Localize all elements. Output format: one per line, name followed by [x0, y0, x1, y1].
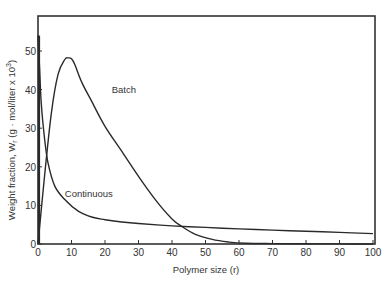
x-tick-label: 30	[133, 247, 145, 258]
y-axis-title-end: )	[6, 60, 17, 63]
x-tick-label: 40	[166, 247, 178, 258]
x-tick-label: 50	[200, 247, 212, 258]
x-tick-label: 80	[300, 247, 312, 258]
x-tick-label: 70	[267, 247, 279, 258]
series-line-continuous	[38, 36, 373, 234]
x-tick-label: 100	[365, 247, 382, 258]
x-tick-label: 60	[233, 247, 245, 258]
y-tick-label: 50	[25, 46, 37, 57]
series-lines	[38, 36, 373, 244]
x-tick-label: 0	[35, 247, 41, 258]
y-tick-label: 10	[25, 200, 37, 211]
plot-border	[38, 16, 375, 244]
x-tick-label: 10	[66, 247, 78, 258]
chart: 0102030405060708090100 01020304050 Batch…	[0, 0, 389, 286]
x-tick-label: 20	[99, 247, 111, 258]
x-tick-label: 90	[334, 247, 346, 258]
series-label-batch: Batch	[112, 84, 136, 95]
y-tick-label: 30	[25, 123, 37, 134]
y-tick-label: 20	[25, 162, 37, 173]
y-tick-label: 40	[25, 85, 37, 96]
x-axis-ticks: 0102030405060708090100	[35, 240, 382, 258]
y-axis-title-rest: (g · mol/liter x 10	[6, 67, 17, 140]
y-axis-title-main: Weight fraction, W	[6, 143, 17, 220]
plot-frame	[38, 16, 375, 244]
series-label-continuous: Continuous	[65, 188, 113, 199]
y-axis-title: Weight fraction, Wr (g · mol/liter x 103…	[5, 60, 18, 220]
x-axis-title: Polymer size (r)	[173, 264, 240, 275]
y-tick-label: 0	[30, 239, 36, 250]
